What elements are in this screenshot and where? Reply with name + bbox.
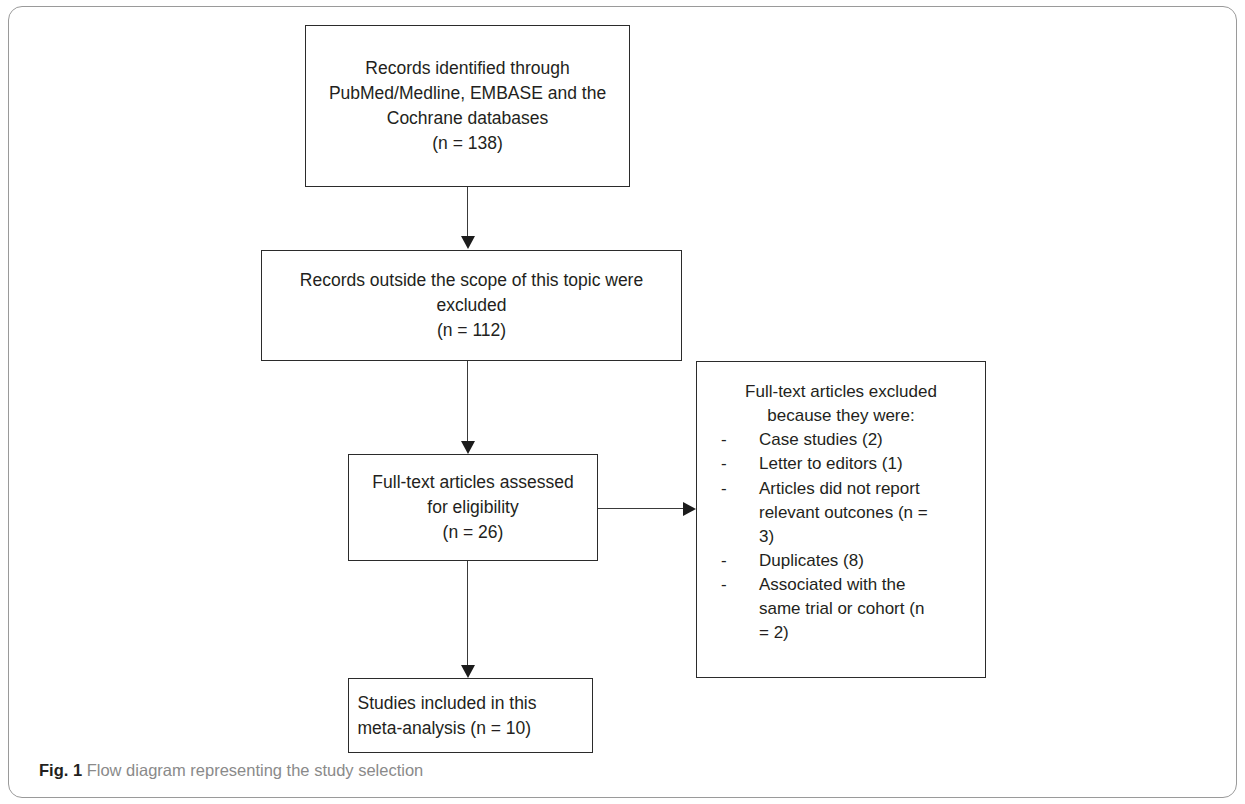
exclusion-reason-item: - Letter to editors (1) bbox=[721, 452, 975, 476]
exclusion-reason-line: Letter to editors (1) bbox=[759, 452, 975, 476]
arrowhead-down-icon bbox=[461, 441, 475, 454]
flow-node-studies-included: Studies included in this meta-analysis (… bbox=[348, 678, 593, 753]
arrowhead-right-icon bbox=[683, 502, 696, 516]
exclusion-reason-line: 3) bbox=[759, 525, 975, 549]
exclusion-reason-list: - Case studies (2) - Letter to editors (… bbox=[697, 428, 985, 645]
flow-node-text: Records outside the scope of this topic … bbox=[262, 268, 681, 343]
connector-fulltext-to-excluded bbox=[598, 508, 685, 509]
exclusion-reason-line: Articles did not report bbox=[759, 477, 975, 501]
connector-scope-to-fulltext bbox=[467, 361, 468, 441]
exclusion-reason-item: - Case studies (2) bbox=[721, 428, 975, 452]
flow-node-text: Full-text articles assessed for eligibil… bbox=[349, 470, 597, 545]
exclusion-reason-line: same trial or cohort (n bbox=[759, 597, 975, 621]
flow-node-line: excluded bbox=[262, 293, 681, 318]
exclusion-heading-line: because they were: bbox=[697, 404, 985, 428]
figure-caption-text: Flow diagram representing the study sele… bbox=[87, 761, 424, 779]
flow-node-line: (n = 26) bbox=[349, 520, 597, 545]
exclusion-reason-item: - Associated with the same trial or coho… bbox=[721, 573, 975, 645]
figure-number-label: Fig. 1 bbox=[39, 761, 82, 779]
flow-node-line: Records outside the scope of this topic … bbox=[262, 268, 681, 293]
flow-node-line: Cochrane databases bbox=[306, 106, 629, 131]
flow-node-fulltext-articles-assessed: Full-text articles assessed for eligibil… bbox=[348, 454, 598, 561]
connector-identified-to-scope bbox=[467, 187, 468, 236]
flow-node-text: Records identified through PubMed/Medlin… bbox=[306, 56, 629, 155]
flow-node-line: PubMed/Medline, EMBASE and the bbox=[306, 81, 629, 106]
flow-node-line: Full-text articles assessed bbox=[349, 470, 597, 495]
exclusion-heading: Full-text articles excluded because they… bbox=[697, 380, 985, 428]
exclusion-reason-line: relevant outcones (n = bbox=[759, 501, 975, 525]
flow-diagram: Records identified through PubMed/Medlin… bbox=[0, 0, 1245, 760]
flow-node-records-identified: Records identified through PubMed/Medlin… bbox=[305, 25, 630, 187]
exclusion-reason-item: - Articles did not report relevant outco… bbox=[721, 477, 975, 549]
flow-node-line: for eligibility bbox=[349, 495, 597, 520]
flow-node-fulltext-articles-excluded: Full-text articles excluded because they… bbox=[696, 361, 986, 678]
arrowhead-down-icon bbox=[461, 665, 475, 678]
figure-caption: Fig. 1 Flow diagram representing the stu… bbox=[39, 761, 423, 780]
exclusion-reason-line: Associated with the bbox=[759, 573, 975, 597]
flow-node-line: Records identified through bbox=[306, 56, 629, 81]
flow-node-text: Studies included in this meta-analysis (… bbox=[341, 691, 601, 741]
flow-node-line: meta-analysis (n = 10) bbox=[358, 716, 601, 741]
flow-node-line: (n = 138) bbox=[306, 131, 629, 156]
exclusion-reason-item: - Duplicates (8) bbox=[721, 549, 975, 573]
flow-node-records-outside-scope-excluded: Records outside the scope of this topic … bbox=[261, 250, 682, 361]
list-dash-icon: - bbox=[721, 477, 727, 501]
list-dash-icon: - bbox=[721, 549, 727, 573]
exclusion-reason-line: Duplicates (8) bbox=[759, 549, 975, 573]
connector-fulltext-to-included bbox=[467, 561, 468, 665]
flow-node-line: (n = 112) bbox=[262, 318, 681, 343]
arrowhead-down-icon bbox=[461, 236, 475, 249]
exclusion-reason-line: = 2) bbox=[759, 621, 975, 645]
list-dash-icon: - bbox=[721, 573, 727, 597]
list-dash-icon: - bbox=[721, 428, 727, 452]
figure-page: Records identified through PubMed/Medlin… bbox=[0, 0, 1245, 804]
flow-node-line: Studies included in this bbox=[358, 691, 601, 716]
list-dash-icon: - bbox=[721, 452, 727, 476]
exclusion-reason-line: Case studies (2) bbox=[759, 428, 975, 452]
exclusion-heading-line: Full-text articles excluded bbox=[697, 380, 985, 404]
